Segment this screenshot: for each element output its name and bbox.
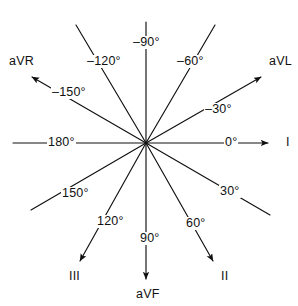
angle-label-60: 60° <box>185 217 207 230</box>
lead-label-aVL: aVL <box>268 55 293 68</box>
angle-label-neg90: –90° <box>132 36 161 49</box>
angle-label-neg60: –60° <box>176 55 205 68</box>
angle-label-150: 150° <box>61 187 90 200</box>
ray-30 <box>146 143 270 215</box>
ray-120-lead-III <box>80 143 146 261</box>
angle-label-neg150: –150° <box>51 86 87 99</box>
ray-neg150-lead-aVR <box>32 77 146 143</box>
lead-label-II: II <box>220 270 229 283</box>
angle-label-30: 30° <box>219 185 241 198</box>
lead-label-aVF: aVF <box>135 288 161 301</box>
angle-label-neg30: –30° <box>204 103 233 116</box>
angle-label-0: 0° <box>224 136 238 149</box>
lead-label-I: I <box>285 136 291 149</box>
angle-label-neg120: –120° <box>86 55 122 68</box>
lead-label-aVR: aVR <box>8 55 35 68</box>
lead-label-III: III <box>68 270 81 283</box>
angle-label-180: 180° <box>47 136 76 149</box>
hexaxial-reference-diagram: –90° –60° –30° 0° 30° 60° 90° 120° 150° … <box>0 0 298 306</box>
angle-label-120: 120° <box>96 215 125 228</box>
angle-label-90: 90° <box>139 232 161 245</box>
